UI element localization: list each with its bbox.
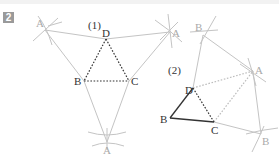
- point-d-label: D: [185, 84, 193, 96]
- point-c-label: C: [211, 124, 218, 136]
- geometry-diagram: (1) D B C A A A: [0, 0, 279, 158]
- point-b-label: B: [195, 21, 202, 33]
- point-d-label: D: [102, 27, 110, 39]
- point-b-label: B: [74, 75, 81, 87]
- point-b-label: B: [262, 135, 269, 147]
- point-b-label: B: [160, 113, 167, 125]
- figure-2-label: (2): [168, 64, 181, 77]
- point-a-label: A: [255, 64, 263, 76]
- point-c-label: C: [131, 75, 138, 87]
- figure-1-label: (1): [88, 19, 101, 32]
- point-a-label: A: [103, 144, 111, 156]
- figure-1: (1) D B C A A A: [33, 14, 182, 156]
- point-a-label: A: [172, 27, 180, 39]
- point-a-label: A: [36, 17, 44, 29]
